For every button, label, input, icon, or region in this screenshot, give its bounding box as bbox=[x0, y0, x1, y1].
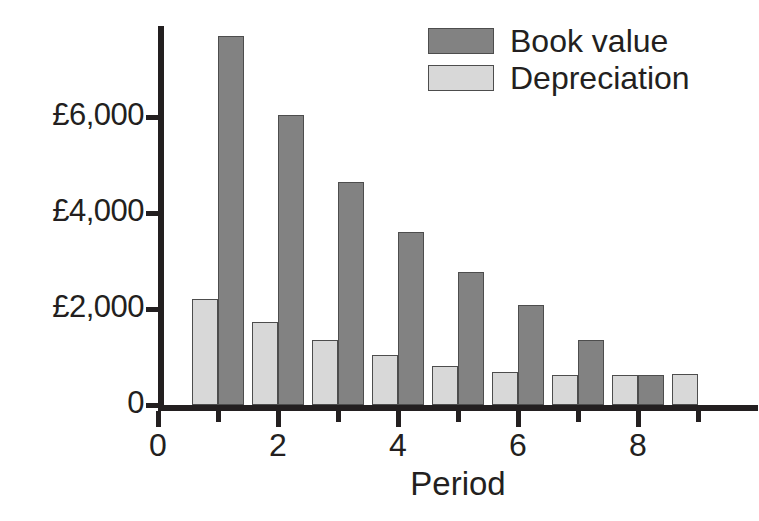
bar-depreciation-period-4[interactable] bbox=[372, 355, 398, 405]
bar-depreciation-period-7[interactable] bbox=[552, 375, 578, 405]
bar-book-value-period-8[interactable] bbox=[638, 375, 664, 405]
bar-depreciation-period-1[interactable] bbox=[192, 299, 218, 405]
y-axis-labels: 0£2,000£4,000£6,000 bbox=[0, 0, 144, 521]
bar-book-value-period-5[interactable] bbox=[458, 272, 484, 405]
x-axis-tick-minor bbox=[456, 411, 461, 422]
x-axis-tick-label: 6 bbox=[498, 428, 538, 462]
bar-book-value-period-3[interactable] bbox=[338, 182, 364, 405]
x-axis-tick-major bbox=[516, 411, 521, 427]
chart-legend: Book value Depreciation bbox=[428, 22, 748, 96]
chart-figure: 0£2,000£4,000£6,000 Period Book value De… bbox=[0, 0, 759, 521]
x-axis-tick-label: 0 bbox=[138, 428, 178, 462]
x-axis-tick-minor bbox=[336, 411, 341, 422]
bar-depreciation-period-2[interactable] bbox=[252, 322, 278, 405]
bar-depreciation-period-8[interactable] bbox=[612, 375, 638, 405]
legend-label-depreciation: Depreciation bbox=[510, 61, 690, 95]
x-axis-tick-major bbox=[396, 411, 401, 427]
bar-book-value-period-4[interactable] bbox=[398, 232, 424, 405]
bar-book-value-period-7[interactable] bbox=[578, 340, 604, 405]
x-axis-tick-label: 4 bbox=[378, 428, 418, 462]
x-axis-tick-major bbox=[156, 411, 161, 427]
legend-swatch-depreciation-icon bbox=[428, 65, 494, 91]
bar-book-value-period-2[interactable] bbox=[278, 115, 304, 405]
x-axis-tick-major bbox=[636, 411, 641, 427]
bar-depreciation-period-3[interactable] bbox=[312, 340, 338, 405]
bar-depreciation-period-6[interactable] bbox=[492, 372, 518, 405]
bar-book-value-period-1[interactable] bbox=[218, 36, 244, 405]
y-axis-tick-label: £2,000 bbox=[52, 291, 144, 322]
x-axis-title: Period bbox=[158, 466, 758, 502]
x-axis-tick-label: 8 bbox=[618, 428, 658, 462]
x-axis-tick-minor bbox=[216, 411, 221, 422]
y-axis-tick-label: 0 bbox=[127, 387, 144, 418]
legend-item-book-value[interactable]: Book value bbox=[428, 22, 748, 59]
y-axis-tick-label: £6,000 bbox=[52, 99, 144, 130]
x-axis-tick-label: 2 bbox=[258, 428, 298, 462]
bar-depreciation-period-9[interactable] bbox=[672, 374, 698, 405]
legend-swatch-book-value-icon bbox=[428, 28, 494, 54]
bar-depreciation-period-5[interactable] bbox=[432, 366, 458, 405]
y-axis-tick-label: £4,000 bbox=[52, 195, 144, 226]
legend-label-book-value: Book value bbox=[510, 24, 668, 58]
x-axis-tick-minor bbox=[696, 411, 701, 422]
bar-book-value-period-6[interactable] bbox=[518, 305, 544, 405]
x-axis-tick-minor bbox=[576, 411, 581, 422]
legend-item-depreciation[interactable]: Depreciation bbox=[428, 59, 748, 96]
x-axis-tick-major bbox=[276, 411, 281, 427]
